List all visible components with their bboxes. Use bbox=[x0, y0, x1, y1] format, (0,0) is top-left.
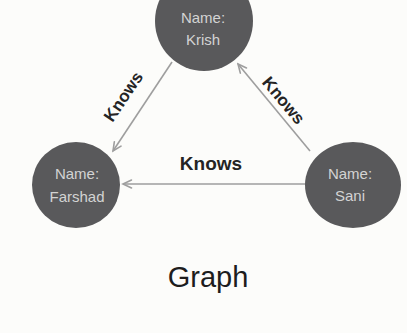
node-farshad-circle bbox=[32, 142, 120, 228]
node-farshad-label-line2: Farshad bbox=[49, 188, 104, 205]
node-sani: Name: Sani bbox=[305, 142, 401, 228]
diagram-page: Knows Knows Knows Name: Krish Name: Fars… bbox=[0, 0, 407, 333]
node-farshad: Name: Farshad bbox=[32, 142, 120, 228]
edge-label-krish-farshad: Knows bbox=[100, 68, 147, 125]
node-krish-label-line2: Krish bbox=[186, 31, 220, 48]
node-sani-circle bbox=[305, 142, 401, 228]
node-sani-label-line1: Name: bbox=[328, 165, 372, 182]
node-farshad-label-line1: Name: bbox=[55, 165, 99, 182]
diagram-title: Graph bbox=[168, 261, 249, 293]
node-sani-label-line2: Sani bbox=[335, 187, 365, 204]
node-krish-label-line1: Name: bbox=[181, 9, 225, 26]
node-krish: Name: Krish bbox=[155, 0, 253, 71]
graph-diagram: Knows Knows Knows Name: Krish Name: Fars… bbox=[0, 0, 407, 333]
edge-label-sani-farshad: Knows bbox=[180, 153, 242, 174]
